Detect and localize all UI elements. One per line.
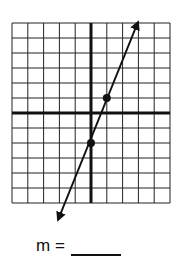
slope-answer: m = — [36, 236, 121, 256]
slope-answer-blank[interactable] — [71, 240, 121, 256]
graphed-line — [58, 22, 138, 220]
slope-label: m = — [36, 236, 65, 256]
marked-point — [103, 94, 111, 102]
coordinate-grid — [0, 0, 175, 230]
marked-point — [87, 139, 95, 147]
